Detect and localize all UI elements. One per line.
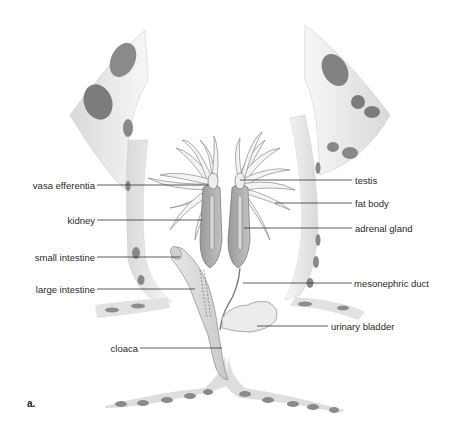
label-mesonephric-duct: mesonephric duct	[354, 278, 429, 289]
label-kidney: kidney	[68, 215, 95, 226]
label-adrenal-gland: adrenal gland	[355, 223, 413, 234]
label-testis: testis	[355, 175, 377, 186]
label-fat-body: fat body	[355, 198, 389, 209]
urinary-bladder	[222, 301, 277, 332]
digestive-tract	[168, 244, 228, 380]
label-vasa-efferentia: vasa efferentia	[33, 180, 95, 191]
lower-body-wall	[105, 357, 345, 413]
label-cloaca: cloaca	[111, 343, 138, 354]
right-body-wall-flap	[305, 25, 390, 175]
label-urinary-bladder: urinary bladder	[331, 321, 394, 332]
panel-letter: a.	[27, 398, 35, 409]
adrenal-gland-left	[210, 195, 214, 250]
testis-right	[235, 173, 245, 189]
adrenal-gland-right	[238, 195, 242, 250]
label-large-intestine: large intestine	[36, 284, 95, 295]
kidney-right	[228, 184, 250, 268]
testis-left	[208, 173, 218, 189]
kidney-left	[200, 184, 222, 268]
label-small-intestine: small intestine	[35, 252, 95, 263]
